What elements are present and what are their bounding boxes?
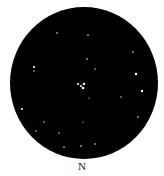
star — [58, 132, 59, 133]
star — [35, 130, 36, 131]
star — [80, 145, 82, 147]
star — [21, 108, 23, 110]
star — [80, 85, 82, 87]
star — [33, 70, 34, 71]
star — [135, 73, 137, 75]
star — [77, 83, 79, 85]
star — [94, 143, 96, 145]
star — [82, 121, 83, 122]
star — [86, 58, 88, 60]
north-label: N — [0, 160, 164, 172]
star — [132, 51, 134, 53]
star — [83, 83, 85, 85]
star — [33, 66, 35, 68]
star-field — [0, 0, 164, 176]
star — [63, 146, 65, 148]
star — [82, 87, 85, 90]
star — [56, 32, 58, 34]
star — [141, 90, 143, 92]
star — [120, 96, 121, 97]
star — [137, 116, 139, 118]
star — [94, 68, 95, 69]
star — [87, 34, 89, 36]
star — [43, 121, 44, 122]
star — [88, 97, 89, 98]
